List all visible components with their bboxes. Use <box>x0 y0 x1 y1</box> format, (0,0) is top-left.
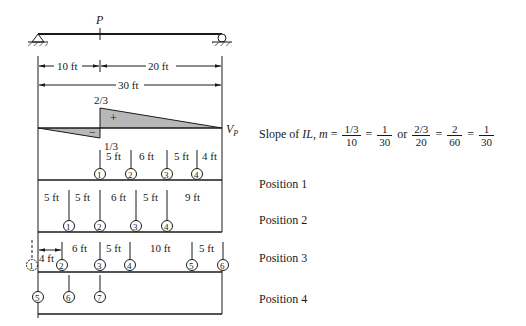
position-4-label: Position 4 <box>259 292 307 307</box>
dimension-30ft: 30 ft <box>39 79 221 91</box>
svg-text:2: 2 <box>97 222 102 232</box>
position-3-loading: 1 2 3 4 5 6 4 ft 6 ft 5 ft 10 ft 5 ft <box>27 240 229 272</box>
svg-text:9 ft: 9 ft <box>185 191 200 203</box>
influence-line-diagram: P 10 ft 20 ft 30 ft 2/3 1/3 + <box>0 0 526 326</box>
wheel-3: 3 <box>131 190 142 232</box>
wheel-6: 6 <box>218 242 229 271</box>
wheel-1-offbeam: 1 <box>27 240 38 271</box>
svg-text:3: 3 <box>97 261 102 271</box>
influence-line-shear: 2/3 1/3 + − VP <box>38 94 238 152</box>
svg-text:30 ft: 30 ft <box>118 79 138 91</box>
svg-text:5 ft: 5 ft <box>75 191 90 203</box>
load-label: P <box>95 13 104 27</box>
svg-text:5: 5 <box>35 293 40 303</box>
position-4-loading: 5 6 7 <box>33 275 223 314</box>
positive-value: 2/3 <box>94 94 109 106</box>
pin-support-icon <box>28 34 48 46</box>
wheel-4: 4 <box>162 190 173 232</box>
roller-support-icon <box>212 34 232 46</box>
wheel-5: 5 <box>187 242 198 271</box>
svg-text:1: 1 <box>66 222 71 232</box>
position-1-loading: 1 2 3 4 5 ft 6 ft 5 ft 4 ft <box>38 150 222 180</box>
wheel-1: 1 <box>64 190 75 232</box>
wheel-1: 1 <box>95 150 106 180</box>
svg-text:5 ft: 5 ft <box>143 191 158 203</box>
wheel-4: 4 <box>125 242 136 271</box>
position-1-label: Position 1 <box>259 177 307 192</box>
wheel-2: 2 <box>95 190 106 232</box>
wheel-7: 7 <box>95 275 106 303</box>
position-3-label: Position 3 <box>259 251 307 266</box>
svg-text:2: 2 <box>128 170 133 180</box>
svg-text:20 ft: 20 ft <box>148 60 168 72</box>
negative-sign: − <box>89 125 96 139</box>
svg-text:6: 6 <box>66 293 71 303</box>
svg-text:5 ft: 5 ft <box>106 150 121 162</box>
svg-text:5 ft: 5 ft <box>106 242 121 254</box>
svg-text:2: 2 <box>59 261 64 271</box>
svg-text:4: 4 <box>127 261 132 271</box>
svg-text:10 ft: 10 ft <box>150 242 170 254</box>
wheel-3: 3 <box>162 150 173 180</box>
svg-text:7: 7 <box>97 293 102 303</box>
dimension-20ft: 20 ft <box>101 60 221 72</box>
wheel-4: 4 <box>192 150 203 180</box>
svg-text:5: 5 <box>189 261 194 271</box>
svg-text:3: 3 <box>133 222 138 232</box>
svg-text:6 ft: 6 ft <box>111 191 126 203</box>
positive-sign: + <box>110 111 117 125</box>
svg-text:6: 6 <box>220 261 225 271</box>
wheel-5: 5 <box>33 292 44 304</box>
svg-text:6 ft: 6 ft <box>139 150 154 162</box>
wheel-2: 2 <box>126 150 137 180</box>
beam: P <box>38 13 222 40</box>
position-2-label: Position 2 <box>259 213 307 228</box>
svg-text:5 ft: 5 ft <box>199 242 214 254</box>
svg-text:10 ft: 10 ft <box>57 60 77 72</box>
svg-text:1: 1 <box>97 170 102 180</box>
wheel-6: 6 <box>64 275 75 303</box>
svg-text:5 ft: 5 ft <box>44 191 59 203</box>
svg-text:1: 1 <box>29 261 34 271</box>
svg-text:4: 4 <box>194 170 199 180</box>
svg-text:3: 3 <box>164 170 169 180</box>
dimension-10ft: 10 ft <box>39 60 99 72</box>
svg-text:4 ft: 4 ft <box>39 252 54 264</box>
svg-text:4: 4 <box>164 222 169 232</box>
slope-equation: Slope of IL, m = 1/310 = 130 or 2/320 = … <box>259 123 496 148</box>
svg-text:6 ft: 6 ft <box>72 242 87 254</box>
svg-text:5 ft: 5 ft <box>174 150 189 162</box>
il-name: VP <box>226 122 238 138</box>
wheel-2: 2 <box>57 242 68 271</box>
wheel-3: 3 <box>95 242 106 271</box>
svg-text:4 ft: 4 ft <box>202 150 217 162</box>
position-2-loading: 1 2 3 4 5 ft 5 ft 6 ft 5 ft 9 ft <box>38 190 222 232</box>
